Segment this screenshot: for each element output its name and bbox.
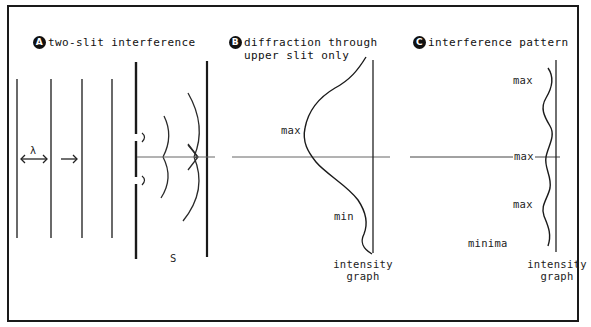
panel-b-badge: B [229, 36, 242, 49]
panel-b-title-line2: upper slit only [244, 49, 377, 62]
panel-c-max-bottom-label: max [513, 198, 533, 210]
slit-wavelets [142, 133, 145, 185]
panel-b-min-label: min [334, 210, 354, 222]
panel-c-graph-line1: intensity [520, 258, 591, 270]
panel-c-max-top-label: max [513, 74, 533, 86]
panel-b-title-text: diffraction through upper slit only [244, 36, 377, 62]
panel-c-graph-line2: graph [520, 270, 591, 282]
panel-b-graph-line2: graph [326, 270, 400, 282]
wavelength-label: λ [30, 145, 36, 157]
panel-a-badge: A [33, 36, 46, 49]
panel-c-title: C interference pattern [413, 36, 568, 49]
panel-c-title-text: interference pattern [428, 36, 568, 49]
panel-c-badge: C [413, 36, 426, 49]
panel-b-max-label: max [281, 124, 301, 136]
panel-c-intensity-graph-label: intensity graph [520, 258, 591, 282]
propagation-arrow [61, 155, 77, 163]
panel-c-max-center-label: max [513, 150, 535, 162]
panel-b-title-line1: diffraction through [244, 36, 377, 49]
panel-b-title: B diffraction through upper slit only [229, 36, 377, 62]
panel-b-graph-line1: intensity [326, 258, 400, 270]
panel-a-title: A two-slit interference [33, 36, 195, 49]
diffraction-curve [304, 57, 372, 254]
panel-a-title-text: two-slit interference [48, 36, 195, 49]
panel-b-intensity-graph-label: intensity graph [326, 258, 400, 282]
panel-c-minima-label: minima [468, 237, 508, 249]
screen-label: S [170, 252, 177, 264]
